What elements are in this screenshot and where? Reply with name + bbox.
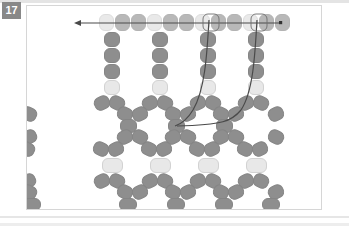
bead-top-row xyxy=(195,14,210,31)
bead-column xyxy=(152,32,168,47)
bead-top-row xyxy=(227,14,242,31)
bead-column xyxy=(152,64,168,79)
bead-top-row xyxy=(131,14,146,31)
bead-top-row xyxy=(275,14,290,31)
bead-bottom-tab xyxy=(167,198,185,210)
bead-accent xyxy=(150,158,171,173)
bead-column xyxy=(248,48,264,63)
bead-top-row xyxy=(163,14,178,31)
bead-accent xyxy=(246,158,267,173)
bead-top-row xyxy=(147,14,162,31)
bead-top-row xyxy=(243,14,258,31)
bead-accent xyxy=(102,158,123,173)
bead-column xyxy=(248,32,264,47)
illustration-panel xyxy=(26,5,322,210)
thread-arrowhead-icon xyxy=(74,20,81,26)
bead-bottom-tab xyxy=(262,198,280,210)
bottom-divider-rule xyxy=(0,216,349,218)
bead-column xyxy=(104,48,120,63)
bead-top-row xyxy=(211,14,226,31)
figure-root: 17 xyxy=(0,0,349,227)
bottom-divider-rule-secondary xyxy=(0,223,349,226)
bead-column xyxy=(200,48,216,63)
bead-column xyxy=(248,64,264,79)
bead-net xyxy=(250,139,271,159)
bead-top-row xyxy=(115,14,130,31)
bead-column xyxy=(200,64,216,79)
bead-column xyxy=(200,32,216,47)
top-divider-rule xyxy=(0,0,349,3)
bead-column xyxy=(104,80,120,95)
bead-column xyxy=(200,80,216,95)
bead-net-edge xyxy=(266,104,287,124)
bead-top-row xyxy=(99,14,114,31)
bead-column xyxy=(152,80,168,95)
bead-accent xyxy=(198,158,219,173)
bead-bottom-tab xyxy=(26,198,41,210)
bead-column xyxy=(248,80,264,95)
bead-net-edge xyxy=(26,104,39,124)
bead-top-row xyxy=(259,14,274,31)
bead-net-edge xyxy=(266,127,287,147)
step-number-badge: 17 xyxy=(2,2,21,19)
bead-column xyxy=(104,64,120,79)
bead-bottom-tab xyxy=(119,198,137,210)
bead-top-row xyxy=(179,14,194,31)
bead-column xyxy=(152,48,168,63)
bead-column xyxy=(104,32,120,47)
bead-bottom-tab xyxy=(215,198,233,210)
